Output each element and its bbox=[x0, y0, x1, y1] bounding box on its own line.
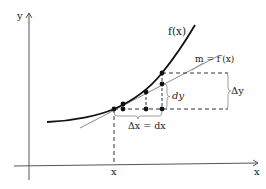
delta-x-brace bbox=[114, 112, 162, 119]
point-tangent-top bbox=[160, 82, 165, 87]
point-curve-1 bbox=[121, 102, 126, 107]
point-base-3 bbox=[160, 107, 165, 112]
delta-y-label: Δy bbox=[231, 85, 244, 96]
tangent-label: m = f′(x) bbox=[195, 54, 234, 64]
x-axis-label: x bbox=[254, 166, 260, 177]
differential-diagram: y x x dy Δy Δx = dx f(x) m = f′(x) bbox=[0, 0, 266, 189]
tangent-label-leader bbox=[192, 63, 203, 70]
dy-label: dy bbox=[172, 90, 184, 101]
point-base bbox=[112, 107, 117, 112]
dy-brace bbox=[164, 84, 170, 109]
x-axis bbox=[14, 163, 258, 166]
point-tangent-2 bbox=[144, 90, 149, 95]
y-axis-label: y bbox=[16, 10, 23, 21]
x-tick-label: x bbox=[111, 166, 117, 177]
point-curve-top bbox=[160, 71, 165, 76]
points bbox=[112, 71, 165, 112]
point-base-2 bbox=[144, 107, 149, 112]
point-base-1 bbox=[121, 107, 126, 112]
function-label: f(x) bbox=[168, 25, 186, 37]
delta-x-label: Δx = dx bbox=[128, 120, 166, 131]
